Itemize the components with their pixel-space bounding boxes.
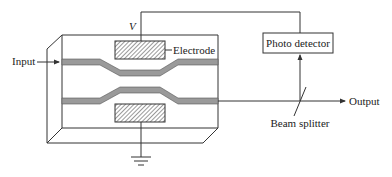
output-label: Output — [349, 95, 380, 107]
electrode-label: Electrode — [173, 44, 215, 56]
bottom-electrode — [115, 104, 165, 122]
top-electrode — [115, 41, 165, 59]
modulator-diagram: Electrode V Input Photo detector Output … — [0, 0, 392, 177]
photo-detector-label: Photo detector — [266, 37, 330, 49]
voltage-label: V — [129, 20, 137, 32]
lower-waveguide — [62, 87, 218, 104]
input-label: Input — [12, 55, 35, 67]
upper-waveguide — [62, 59, 218, 76]
beam-splitter-label: Beam splitter — [271, 117, 330, 129]
